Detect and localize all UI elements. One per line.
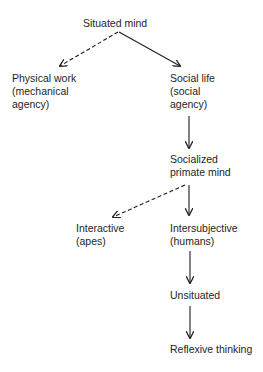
edge-situated-to-social <box>119 32 180 66</box>
node-label-line: Social life <box>170 72 215 85</box>
node-physical-work: Physical work (mechanical agency) <box>12 72 76 111</box>
node-interactive: Interactive (apes) <box>76 222 124 248</box>
node-socialized-primate-mind: Socialized primate mind <box>170 153 231 179</box>
node-label-line: Reflexive thinking <box>170 343 252 356</box>
node-label-line: (mechanical <box>12 85 76 98</box>
node-label-line: Interactive <box>76 222 124 235</box>
node-label-line: Socialized <box>170 153 231 166</box>
node-label-line: (apes) <box>76 235 124 248</box>
node-label-line: Situated mind <box>83 17 147 30</box>
diagram-edges <box>0 0 263 372</box>
node-label-line: Intersubjective <box>170 222 238 235</box>
node-intersubjective: Intersubjective (humans) <box>170 222 238 248</box>
edge-socialized-to-interactive <box>113 185 185 217</box>
node-situated-mind: Situated mind <box>83 17 147 30</box>
node-unsituated: Unsituated <box>170 289 220 302</box>
edge-situated-to-physical <box>60 32 118 66</box>
node-label-line: (social <box>170 85 215 98</box>
node-label-line: agency) <box>12 98 76 111</box>
node-label-line: Unsituated <box>170 289 220 302</box>
node-social-life: Social life (social agency) <box>170 72 215 111</box>
node-label-line: (humans) <box>170 235 238 248</box>
node-reflexive-thinking: Reflexive thinking <box>170 343 252 356</box>
node-label-line: agency) <box>170 98 215 111</box>
node-label-line: primate mind <box>170 166 231 179</box>
node-label-line: Physical work <box>12 72 76 85</box>
